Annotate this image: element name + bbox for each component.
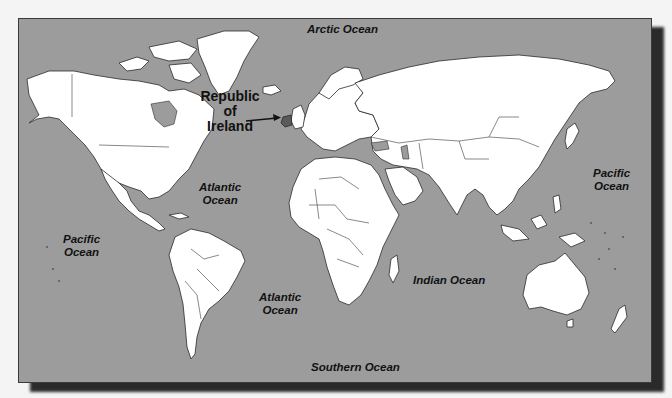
landmass-tasmania [567,319,573,327]
callout-line-1: Republic [195,89,265,104]
landmass-north-america [27,71,214,199]
label-pacific-ocean-west: Pacific Ocean [63,233,100,259]
landmass-philippines [553,195,561,213]
arctic-island [119,57,149,71]
landmass-ireland [281,115,292,127]
landmass-arabia [385,167,423,205]
landmass-borneo [531,215,547,229]
label-atlantic-ocean-north: Atlantic Ocean [199,181,241,207]
landmass-greenland [197,31,259,95]
caribbean-island [169,213,189,219]
world-map-graphic [19,19,652,383]
landmass-south-america [169,229,245,359]
label-southern-ocean: Southern Ocean [311,361,400,374]
landmass-japan [565,123,579,149]
landmass-great-britain [291,105,305,129]
label-pacific-ocean-east: Pacific Ocean [593,167,630,193]
landmass-new-zealand [611,305,627,333]
arctic-island [169,63,201,83]
label-indian-ocean: Indian Ocean [413,274,485,287]
landmass-madagascar [389,255,399,283]
landmass-new-guinea [559,233,585,247]
callout-line-2: of [195,104,265,119]
callout-republic-of-ireland: Republic of Ireland [195,89,265,134]
arctic-island [149,41,197,61]
landmass-australia [523,253,589,315]
label-arctic-ocean: Arctic Ocean [307,23,378,36]
landmass-indonesia [501,225,529,241]
landmass-iceland [263,85,281,95]
callout-line-3: Ireland [195,119,265,134]
label-atlantic-ocean-south: Atlantic Ocean [259,291,301,317]
world-map: Republic of Ireland Arctic Ocean Atlanti… [18,18,652,383]
